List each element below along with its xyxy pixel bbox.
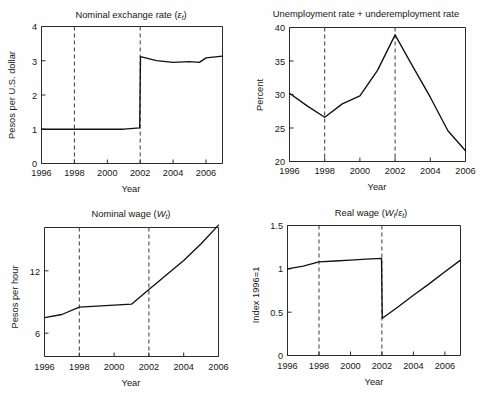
panel3-xtick-2004: 2004 [173, 362, 193, 372]
panel3-y-ticklabels: 12 6 [30, 267, 40, 339]
panel3-title-suffix: ) [167, 208, 170, 219]
panel1-ylabel: Pesos per U.S. dollar [7, 51, 17, 139]
panel3-ytick-12: 12 [30, 267, 40, 277]
panel2-y-ticklabels: 20 25 30 35 40 [275, 23, 285, 167]
panel3-x-ticklabels: 1996 1998 2000 2002 2004 2006 [34, 362, 228, 372]
panel2-ytick-30: 30 [275, 90, 285, 100]
panel3-title: Nominal wage (Wt) [92, 208, 171, 220]
panel4-ytick-15: 1.5 [270, 221, 283, 231]
panel4-title-suffix: ) [404, 207, 407, 218]
panel3-axes [45, 228, 219, 357]
panel1-ytick-2: 2 [32, 91, 37, 101]
panel3-series-line [45, 225, 219, 318]
panel3-xtick-2006: 2006 [208, 362, 228, 372]
panel2-ytick-25: 25 [275, 124, 285, 134]
panel2-ylabel: Percent [255, 79, 265, 111]
panel-nominal-wage: Nominal wage (Wt) Pesos per hour 12 6 [0, 200, 243, 401]
panel4-xtick-2002: 2002 [372, 361, 392, 371]
panel3-xtick-1998: 1998 [69, 362, 89, 372]
panel4-ylabel: Index 1996=1 [251, 267, 261, 324]
panel1-x-ticklabels: 1996 1998 2000 2002 2004 2006 [31, 168, 216, 178]
panel3-ylabel: Pesos per hour [10, 265, 20, 328]
panel1-title: Nominal exchange rate (εt) [75, 9, 186, 21]
panel3-xtick-1996: 1996 [34, 362, 54, 372]
panel4-xtick-1998: 1998 [309, 361, 329, 371]
panel4-xtick-2004: 2004 [403, 361, 423, 371]
panel3-title-prefix: Nominal wage ( [92, 208, 158, 219]
panel4-ytick-05: 0.5 [270, 308, 283, 318]
panel3-xtick-2000: 2000 [104, 362, 124, 372]
figure-canvas: Nominal exchange rate (εt) Pesos per U.S… [0, 0, 485, 401]
panel4-ytick-1: 1 [278, 264, 283, 274]
panel3-ytick-6: 6 [35, 329, 40, 339]
panel4-xtick-2006: 2006 [435, 361, 455, 371]
panel-real-wage: Real wage (Wt/εt) Index 1996=1 0 0.5 1 1… [243, 200, 485, 401]
panel1-y-ticklabels: 0 1 2 3 4 [32, 22, 37, 169]
panel3-xlabel: Year [122, 378, 141, 388]
panel1-series-line [42, 56, 223, 129]
panel1-ytick-4: 4 [32, 22, 37, 32]
panel3-x-ticks [45, 353, 219, 357]
panel2-xtick-2000: 2000 [350, 166, 370, 176]
panel2-xtick-2002: 2002 [385, 166, 405, 176]
panel1-xtick-2004: 2004 [163, 168, 183, 178]
panel1-ytick-3: 3 [32, 57, 37, 67]
panel1-xtick-2000: 2000 [97, 168, 117, 178]
panel2-title: Unemployment rate + underemployment rate [273, 8, 459, 19]
panel4-x-ticks [288, 352, 445, 356]
panel3-xtick-2002: 2002 [139, 362, 159, 372]
panel2-xtick-2004: 2004 [420, 166, 440, 176]
panel2-ytick-40: 40 [275, 23, 285, 33]
panel2-xtick-1996: 1996 [279, 166, 299, 176]
panel4-y-ticks [288, 226, 292, 356]
panel-nominal-exchange-rate: Nominal exchange rate (εt) Pesos per U.S… [0, 0, 243, 200]
panel2-series-line [290, 35, 466, 151]
panel4-y-ticklabels: 0 0.5 1 1.5 [270, 221, 283, 361]
panel2-x-ticklabels: 1996 1998 2000 2002 2004 2006 [279, 166, 475, 176]
panel1-xtick-1996: 1996 [31, 168, 51, 178]
panel4-series-line [288, 258, 461, 318]
panel2-axes [290, 28, 466, 162]
panel1-xtick-2002: 2002 [130, 168, 150, 178]
panel2-x-ticks [290, 158, 466, 162]
panel1-xlabel: Year [122, 184, 141, 194]
panel-unemployment-underemployment: Unemployment rate + underemployment rate… [243, 0, 485, 200]
panel4-title: Real wage (Wt/εt) [335, 207, 407, 219]
panel4-xtick-2000: 2000 [340, 361, 360, 371]
panel2-ytick-35: 35 [275, 57, 285, 67]
panel1-y-ticks [42, 27, 46, 164]
panel1-axes [42, 27, 223, 164]
panel1-x-ticks [42, 160, 207, 164]
panel1-ytick-1: 1 [32, 125, 37, 135]
panel2-xtick-1998: 1998 [314, 166, 334, 176]
panel1-xtick-2006: 2006 [196, 168, 216, 178]
panel2-xtick-2006: 2006 [455, 166, 475, 176]
panel2-xlabel: Year [368, 182, 387, 192]
panel4-title-prefix: Real wage ( [335, 207, 386, 218]
panel1-xtick-1998: 1998 [64, 168, 84, 178]
panel4-ytick-0: 0 [278, 351, 283, 361]
panel1-title-suffix: ) [183, 9, 186, 20]
panel3-y-ticks [45, 271, 49, 333]
panel4-axes [288, 226, 461, 356]
panel4-xtick-1996: 1996 [277, 361, 297, 371]
panel4-xlabel: Year [365, 377, 384, 387]
panel4-x-ticklabels: 1996 1998 2000 2002 2004 2006 [277, 361, 455, 371]
panel1-title-prefix: Nominal exchange rate ( [75, 9, 178, 20]
